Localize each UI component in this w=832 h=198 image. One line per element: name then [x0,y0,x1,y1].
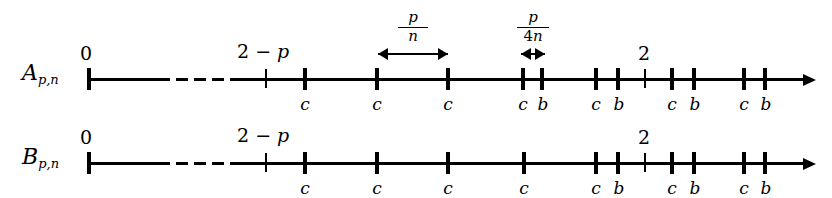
axis-a-tick-c-3 [446,68,450,90]
axis-a-two-minus-p-label: 2 − p [237,42,289,61]
axis-a-tick-c-5 [594,68,598,90]
axis-a-caption-11: b [758,96,774,113]
axis-a-tick-c-7 [742,68,746,90]
measure-p-over-4n-fraction: p 4n [517,10,549,45]
axis-a-zero-label: 0 [80,44,92,63]
axis-b-caption-1: c [297,180,313,197]
axis-b-tick-c-3 [446,152,450,174]
axis-b-caption-8: b [687,180,703,197]
axis-b-segment-left [88,162,170,165]
axis-b-caption-4: c [516,180,532,197]
axis-label-b: Bp,n [22,146,59,170]
axis-label-a-subscript: p,n [38,72,59,87]
axis-a-tick-b-4 [540,68,544,90]
measure-p-over-n-left-arrowhead-icon [378,48,388,60]
axis-a-caption-7: b [611,96,627,113]
axis-a-segment-left [88,78,170,81]
axis-a-caption-1: c [297,96,313,113]
measure-p-over-n-arrow [378,48,448,60]
measure-p-over-4n-numerator: p [517,10,549,26]
measure-p-over-4n-right-arrowhead-icon [535,48,545,60]
axis-b-tick-c-4 [522,152,526,174]
axis-label-a-script: A [22,60,38,85]
measure-p-over-4n-denominator-const: 4 [523,27,533,45]
measure-p-over-n-numerator: p [398,10,428,26]
measure-p-over-n-denominator: n [398,29,428,45]
axis-a-two-label: 2 [638,44,650,63]
axis-a-caption-2: c [369,96,385,113]
axis-b-segment-right [230,162,805,165]
axis-b-tick-b-5 [616,152,620,174]
measure-p-over-4n-denominator: 4n [517,29,549,45]
axis-a-tick-b-5 [616,68,620,90]
axis-a-dash-1 [176,78,188,81]
axis-a-tick-b-6 [692,68,696,90]
axis-a-dash-2 [194,78,206,81]
axis-b-dash-2 [194,162,206,165]
measure-p-over-4n-left-arrowhead-icon [521,48,531,60]
axis-a-segment-right [230,78,805,81]
axis-b-two-label: 2 [638,128,650,147]
axis-a-tick-zero [87,68,91,90]
axis-b-caption-7: c [664,180,680,197]
axis-b-dash-1 [176,162,188,165]
axis-a-caption-10: c [736,96,752,113]
axis-b-caption-10: b [758,180,774,197]
axis-b-caption-2: c [369,180,385,197]
axis-a-tick-c-2 [375,68,379,90]
axis-b-arrowhead-icon [803,158,816,170]
axis-b-tick-c-1 [303,152,307,174]
axis-a-caption-3: c [440,96,456,113]
axis-a-caption-8: c [664,96,680,113]
axis-a-tick-b-7 [763,68,767,90]
axis-b-caption-5: c [588,180,604,197]
measure-p-over-4n-denominator-var: n [533,27,543,45]
axis-b-two-minus-p-label: 2 − p [237,126,289,145]
axis-b-tick-two [644,153,646,172]
axis-b-tick-c-6 [670,152,674,174]
measure-p-over-n-right-arrowhead-icon [438,48,448,60]
axis-a-tick-c-1 [303,68,307,90]
axis-a-caption-9: b [687,96,703,113]
axis-b-zero-label: 0 [80,128,92,147]
axis-b-tick-c-2 [375,152,379,174]
axis-b-caption-3: c [440,180,456,197]
axis-a-caption-4: c [515,96,531,113]
axis-b-caption-9: c [736,180,752,197]
axis-a-tick-c-6 [670,68,674,90]
axis-label-b-script: B [22,144,38,169]
axis-a-caption-6: c [588,96,604,113]
axis-b-tick-b-7 [763,152,767,174]
axis-label-a: Ap,n [22,62,59,86]
axis-b-tick-two-minus-p [265,153,267,172]
axis-label-b-subscript: p,n [38,156,59,171]
number-line-figure: Ap,n 0 2 − p 2 c c c c b c [0,0,832,198]
axis-b-caption-6: b [611,180,627,197]
axis-b-tick-c-7 [742,152,746,174]
axis-b-tick-zero [87,152,91,174]
axis-a-tick-two-minus-p [265,69,267,88]
axis-b-dash-3 [212,162,224,165]
axis-a-tick-two [644,69,646,88]
axis-a-arrowhead-icon [803,74,816,86]
axis-b-tick-c-5 [594,152,598,174]
axis-a-dash-3 [212,78,224,81]
measure-p-over-n-fraction: p n [398,10,428,45]
axis-b-tick-b-6 [692,152,696,174]
measure-p-over-4n-arrow [521,48,545,60]
axis-a-caption-5: b [535,96,551,113]
axis-a-tick-c-4 [521,68,525,90]
